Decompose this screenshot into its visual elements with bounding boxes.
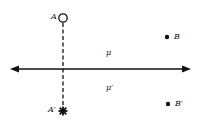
point-label-b: B	[174, 33, 180, 41]
region-label-mu-prime: μ′	[106, 84, 113, 92]
diagram: A A′ B B′ μ μ′	[0, 0, 198, 125]
point-label-a-prime: A′	[48, 106, 56, 114]
right-arrowhead-icon	[182, 66, 191, 73]
point-label-a: A	[51, 13, 57, 21]
filled-dot-icon	[166, 102, 170, 106]
left-arrowhead-icon	[10, 66, 19, 73]
star-icon	[59, 107, 68, 116]
diagram-graphics	[0, 0, 198, 125]
region-label-mu: μ	[106, 49, 111, 57]
point-label-b-prime: B′	[175, 100, 183, 108]
open-circle-icon	[59, 14, 67, 22]
filled-dot-icon	[165, 35, 169, 39]
